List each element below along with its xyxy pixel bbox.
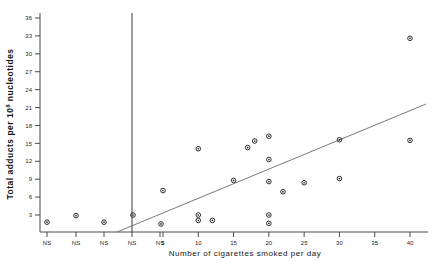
data-point-center: [132, 214, 134, 216]
data-point-center: [268, 223, 270, 225]
regression-fit-line: [117, 104, 426, 232]
y-tick-label: 9: [29, 176, 33, 182]
data-point-center: [75, 215, 77, 217]
x-tick-label: 25: [301, 240, 308, 246]
x-tick-label: 10: [195, 240, 202, 246]
x-tick-label-ns: NS: [128, 240, 136, 246]
plot-canvas: Total adducts per 108 nucleotides 369121…: [0, 0, 432, 262]
x-tick-label-ns: NS: [100, 240, 108, 246]
data-point-center: [254, 140, 256, 142]
data-point-center: [409, 37, 411, 39]
y-tick-label: 27: [25, 69, 32, 75]
data-point-center: [103, 221, 105, 223]
y-tick-label: 12: [25, 158, 32, 164]
data-point-center: [233, 180, 235, 182]
data-points-non-smokers: [45, 213, 164, 227]
x-tick-label: 20: [266, 240, 273, 246]
y-tick-label: 33: [25, 33, 32, 39]
x-axis-ticks: NSNSNSNSNS510152025303540: [43, 232, 414, 246]
data-point-center: [339, 139, 341, 141]
y-tick-label: 18: [25, 123, 32, 129]
data-point-center: [268, 214, 270, 216]
y-axis-title-tail: nucleotides: [5, 48, 15, 104]
data-point-center: [339, 178, 341, 180]
data-point-center: [160, 223, 162, 225]
x-tick-label: 5: [161, 240, 165, 246]
x-tick-label: 35: [371, 240, 378, 246]
data-point-center: [409, 140, 411, 142]
x-tick-label: 40: [407, 240, 414, 246]
y-axis-ticks: 369121518212427303336: [25, 15, 40, 218]
data-point-center: [46, 221, 48, 223]
y-tick-label: 15: [25, 141, 32, 147]
data-point-center: [162, 190, 164, 192]
data-point-center: [197, 220, 199, 222]
y-tick-label: 24: [25, 87, 32, 93]
data-point-center: [282, 191, 284, 193]
data-point-center: [268, 181, 270, 183]
y-tick-label: 3: [29, 212, 33, 218]
x-tick-label-ns: NS: [72, 240, 80, 246]
data-point-center: [268, 159, 270, 161]
x-axis-title: Number of cigarettes smoked per day: [169, 249, 322, 258]
scatter-plot-figure: Total adducts per 108 nucleotides 369121…: [0, 0, 432, 262]
data-point-center: [268, 135, 270, 137]
data-point-center: [303, 182, 305, 184]
y-axis-title: Total adducts per 108 nucleotides: [5, 48, 15, 199]
data-point-center: [212, 220, 214, 222]
y-tick-label: 6: [29, 194, 33, 200]
y-tick-label: 30: [25, 51, 32, 57]
x-tick-label: 30: [336, 240, 343, 246]
data-point-center: [197, 148, 199, 150]
data-points-smokers: [161, 36, 413, 226]
data-point-center: [247, 147, 249, 149]
y-axis-title-main: Total adducts per 10: [5, 108, 15, 200]
y-tick-label: 36: [25, 15, 32, 21]
y-tick-label: 21: [25, 105, 32, 111]
data-point-center: [197, 214, 199, 216]
x-tick-label: 15: [230, 240, 237, 246]
svg-text:Total adducts per 108 nucleoti: Total adducts per 108 nucleotides: [5, 48, 15, 199]
x-tick-label-ns: NS: [43, 240, 51, 246]
